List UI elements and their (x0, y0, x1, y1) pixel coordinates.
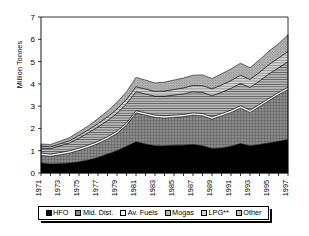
legend-swatch-lpg (201, 210, 207, 216)
x-tick-label: 1993 (243, 180, 252, 196)
series-areas (41, 35, 288, 173)
legend-label-mid-dist: Mid. Dist. (83, 209, 113, 216)
legend-item-av-fuels[interactable]: Av. Fuels (120, 209, 157, 216)
legend-item-mid-dist[interactable]: Mid. Dist. (75, 209, 113, 216)
x-tick-label: 1989 (205, 180, 214, 196)
legend-item-other[interactable]: Other (236, 209, 262, 216)
y-tick-label: 6 (31, 35, 36, 44)
x-tick-label: 1983 (148, 180, 157, 196)
x-tick-label: 1987 (186, 180, 195, 196)
x-tick-label: 1973 (53, 180, 62, 196)
y-tick-label: 7 (31, 13, 36, 22)
x-tick-label: 1981 (129, 180, 138, 196)
y-tick-label: 3 (31, 102, 36, 111)
legend-item-hfo[interactable]: HFO (46, 209, 69, 216)
legend-swatch-av-fuels (120, 210, 126, 216)
x-tick-label: 1995 (262, 180, 271, 196)
x-tick-label: 1997 (281, 180, 290, 196)
chart-legend: HFO Mid. Dist. Av. Fuels Mogas LPG** Oth… (38, 206, 269, 220)
y-tick-label: 2 (31, 124, 36, 133)
x-tick-label: 1979 (110, 180, 119, 196)
legend-label-other: Other (243, 209, 261, 216)
legend-item-mogas[interactable]: Mogas (165, 209, 194, 216)
legend-item-lpg[interactable]: LPG** (201, 209, 229, 216)
legend-label-lpg: LPG** (208, 209, 228, 216)
legend-swatch-mogas (165, 210, 171, 216)
plot-area-wrapper: 0123456719711973197519771979198119831985… (0, 0, 309, 236)
chart-svg: 0123456719711973197519771979198119831985… (0, 0, 309, 236)
legend-label-hfo: HFO (53, 209, 68, 216)
x-tick-label: 1971 (34, 180, 43, 196)
legend-label-av-fuels: Av. Fuels (128, 209, 158, 216)
x-tick-label: 1985 (167, 180, 176, 196)
x-tick-label: 1977 (91, 180, 100, 196)
y-tick-label: 4 (31, 80, 36, 89)
y-tick-label: 5 (31, 58, 36, 67)
legend-swatch-mid-dist (75, 210, 81, 216)
y-tick-label: 1 (31, 147, 36, 156)
legend-swatch-hfo (46, 210, 52, 216)
legend-label-mogas: Mogas (172, 209, 194, 216)
y-axis-label: Million Tonnes (15, 25, 24, 105)
stacked-area-chart: 0123456719711973197519771979198119831985… (0, 0, 309, 236)
legend-swatch-other (236, 210, 242, 216)
x-tick-label: 1975 (72, 180, 81, 196)
x-tick-label: 1991 (224, 180, 233, 196)
y-tick-label: 0 (31, 169, 36, 178)
